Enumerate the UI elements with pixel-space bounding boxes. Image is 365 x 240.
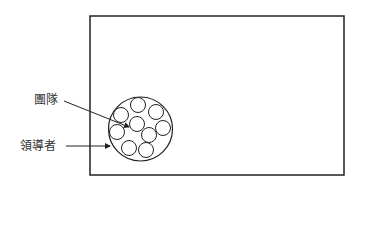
leader-label: 領導者 — [20, 140, 56, 152]
team-member-circle — [122, 141, 137, 156]
team-member-circle — [131, 98, 146, 113]
team-member-circle — [130, 117, 145, 132]
team-label: 團隊 — [34, 94, 58, 106]
team-member-circles — [110, 98, 171, 158]
team-member-circle — [156, 121, 171, 136]
team-member-circle — [110, 125, 125, 140]
team-member-circle — [142, 128, 157, 143]
team-member-circle — [114, 108, 129, 123]
team-member-circle — [149, 105, 164, 120]
team-member-circle — [139, 143, 154, 158]
